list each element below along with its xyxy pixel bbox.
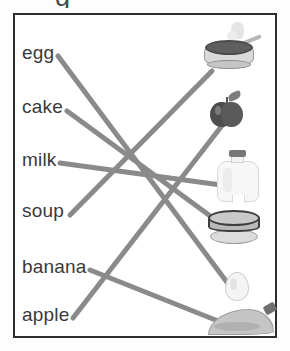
apple-image[interactable]	[210, 92, 245, 130]
soup-bowl-image[interactable]	[203, 22, 258, 72]
worksheet-page: g eggcakemilksoupbananaapple	[0, 0, 290, 351]
word-label-egg[interactable]: egg	[22, 42, 54, 64]
banana-image[interactable]	[208, 303, 278, 338]
connector-line-banana-to-banana-pic[interactable]	[90, 270, 223, 323]
word-label-apple[interactable]: apple	[22, 304, 70, 326]
word-label-cake[interactable]: cake	[22, 96, 63, 118]
connector-line-apple-to-apple-pic[interactable]	[73, 123, 224, 318]
word-label-banana[interactable]: banana	[22, 256, 87, 278]
milk-jug-image[interactable]	[215, 150, 263, 206]
cake-image[interactable]	[207, 210, 263, 248]
connector-line-cake-to-cake-pic[interactable]	[67, 111, 228, 229]
word-label-milk[interactable]: milk	[22, 149, 57, 171]
word-label-soup[interactable]: soup	[22, 200, 64, 222]
connector-line-soup-to-soup-bowl[interactable]	[70, 71, 212, 215]
egg-image[interactable]	[225, 272, 251, 303]
